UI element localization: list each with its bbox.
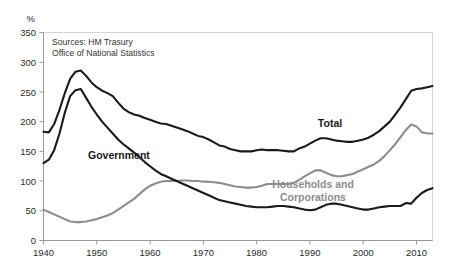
y-tick-label: 150: [20, 146, 36, 157]
y-tick-label: 350: [20, 27, 36, 38]
y-tick-label: 250: [20, 87, 36, 98]
x-tick-label: 1990: [299, 247, 320, 258]
y-tick-label: 300: [20, 57, 36, 68]
series-label-government: Government: [88, 149, 150, 161]
x-tick-label: 1970: [193, 247, 214, 258]
y-tick-label: 0: [31, 235, 36, 246]
x-tick-label: 1940: [33, 247, 54, 258]
y-axis-unit-label: %: [27, 13, 36, 24]
debt-to-gdp-line-chart: 0 50 100 150 200 250 300 350 % 1940 1950…: [0, 0, 450, 270]
chart-container: 0 50 100 150 200 250 300 350 % 1940 1950…: [0, 0, 450, 270]
x-tick-label: 1950: [86, 247, 107, 258]
y-tick-label: 100: [20, 176, 36, 187]
x-tick-label: 2000: [353, 247, 374, 258]
source-note-line2: Office of National Statistics: [52, 48, 155, 58]
y-tick-label: 50: [25, 205, 36, 216]
x-tick-label: 1960: [140, 247, 161, 258]
source-note-line1: Sources: HM Trasury: [52, 37, 133, 47]
series-label-households-line1: Households and: [272, 178, 354, 190]
y-tick-label: 200: [20, 116, 36, 127]
series-label-households-line2: Corporations: [280, 191, 346, 203]
series-label-total: Total: [318, 117, 342, 129]
x-tick-label: 2010: [406, 247, 427, 258]
x-tick-label: 1980: [246, 247, 267, 258]
